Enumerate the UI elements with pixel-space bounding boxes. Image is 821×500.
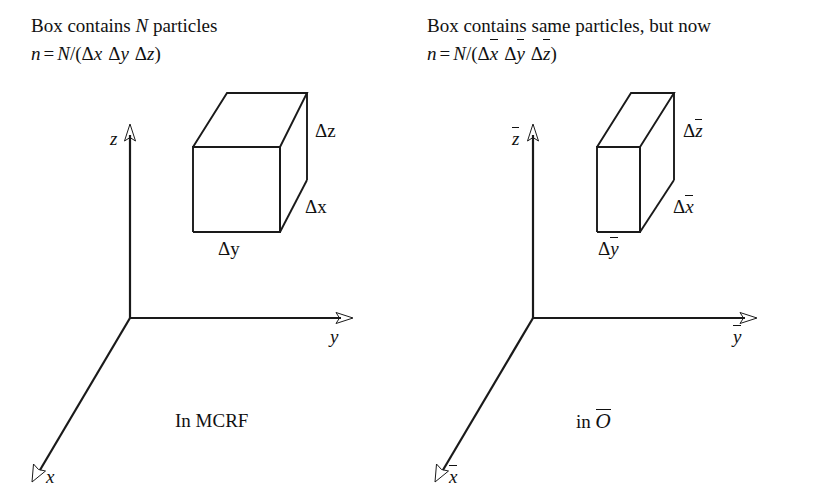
right-x-axis-label-barred: x: [449, 466, 457, 488]
left-box: [193, 93, 307, 232]
right-frame-observer-symbol-barred: O: [596, 410, 612, 432]
left-delta-z-label: Δz: [315, 120, 336, 142]
left-y-axis-label: y: [330, 326, 338, 348]
right-delta-y-delta: Δ: [598, 238, 610, 259]
right-delta-x-label: Δx: [673, 196, 694, 218]
left-frame-label: In MCRF: [175, 410, 248, 432]
diagram-vector-layer: [0, 0, 821, 500]
figure-canvas: Box contains N particles n=N/(ΔxΔyΔz) Bo…: [0, 0, 821, 500]
right-frame-label-pre: in: [576, 411, 596, 432]
right-delta-y-label: Δy: [598, 238, 619, 260]
left-box-right-bottom-edge: [280, 180, 307, 232]
right-box-front-face: [597, 147, 640, 232]
right-delta-z-var-barred: z: [695, 120, 702, 142]
right-box-top-face: [597, 93, 674, 147]
right-frame-label: in O: [576, 410, 611, 433]
right-y-axis-label: y: [733, 326, 741, 348]
right-delta-z-label: Δz: [683, 120, 703, 142]
right-delta-x-var-barred: x: [685, 196, 693, 218]
left-x-axis-arrowhead: [32, 464, 46, 482]
left-box-top-face: [193, 93, 307, 147]
right-x-axis-arrowhead: [435, 464, 449, 482]
right-y-axis-label-barred: y: [733, 326, 741, 348]
left-box-front-face: [193, 147, 280, 232]
right-x-axis-label: x: [449, 466, 457, 488]
left-x-axis-label: x: [46, 466, 54, 488]
left-z-axis-label: z: [110, 128, 117, 150]
left-delta-y-label: Δy: [218, 238, 240, 260]
right-delta-z-delta: Δ: [683, 120, 695, 141]
right-delta-x-delta: Δ: [673, 196, 685, 217]
right-x-axis-line: [443, 318, 533, 470]
right-delta-y-var-barred: y: [610, 238, 618, 260]
right-box-right-bottom-edge: [640, 180, 674, 232]
right-z-axis-label: z: [512, 128, 519, 150]
left-delta-x-label: Δx: [305, 196, 327, 218]
right-z-axis-label-barred: z: [512, 128, 519, 150]
right-box: [597, 93, 674, 232]
left-x-axis-line: [40, 318, 130, 470]
